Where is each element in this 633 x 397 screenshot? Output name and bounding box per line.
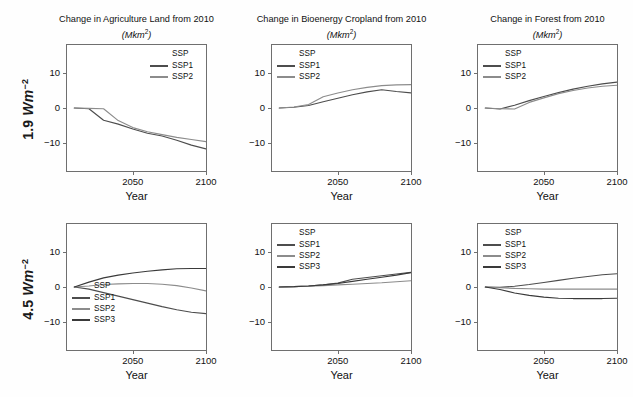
y-tick-label: 0 xyxy=(227,102,265,113)
legend-swatch-ssp2 xyxy=(483,255,501,257)
legend-label: SSP1 xyxy=(299,60,320,71)
legend-title: SSP xyxy=(72,280,115,291)
y-tick-label: −10 xyxy=(22,316,60,327)
x-tick-label: 2050 xyxy=(519,355,569,366)
legend-bioenergy-1p9: SSPSSP1SSP2 xyxy=(277,48,320,82)
panel-title-units: (Mkm2) xyxy=(431,26,633,42)
legend-item-ssp2[interactable]: SSP2 xyxy=(277,250,320,261)
y-tickmark xyxy=(63,322,66,323)
x-tick-label: 2050 xyxy=(519,176,569,187)
x-tickmark xyxy=(411,351,412,354)
y-tick-label: −10 xyxy=(22,137,60,148)
legend-swatch-ssp3 xyxy=(277,266,295,268)
figure-canvas: 1.9 Wm−24.5 Wm−2Change in Agriculture La… xyxy=(0,0,633,397)
series-line-ssp1 xyxy=(279,90,411,108)
x-tickmark xyxy=(411,172,412,175)
panel-title-block-agri-1p9: Change in Agriculture Land from 2010(Mkm… xyxy=(20,13,253,43)
y-tickmark xyxy=(268,143,271,144)
legend-swatch-ssp1 xyxy=(483,65,501,67)
legend-item-ssp3[interactable]: SSP3 xyxy=(72,314,115,325)
legend-item-ssp2[interactable]: SSP2 xyxy=(72,303,115,314)
y-tick-label: −10 xyxy=(227,137,265,148)
y-tickmark xyxy=(63,73,66,74)
y-tick-label: 0 xyxy=(22,281,60,292)
x-tickmark xyxy=(338,172,339,175)
legend-label: SSP2 xyxy=(172,71,193,82)
panel-title-text: Change in Agriculture Land from 2010 xyxy=(59,14,214,24)
x-tick-label: 2100 xyxy=(181,176,231,187)
legend-swatch-ssp2 xyxy=(277,76,295,78)
series-line-ssp1 xyxy=(74,108,206,149)
y-tick-label: 10 xyxy=(22,246,60,257)
x-tick-label: 2100 xyxy=(386,176,436,187)
legend-forest-4p5: SSPSSP1SSP2SSP3 xyxy=(483,227,526,272)
y-tickmark xyxy=(268,108,271,109)
legend-item-ssp2[interactable]: SSP2 xyxy=(483,71,526,82)
legend-label: SSP2 xyxy=(505,71,526,82)
x-tick-label: 2100 xyxy=(386,355,436,366)
x-tickmark xyxy=(133,351,134,354)
legend-agri-4p5: SSPSSP1SSP2SSP3 xyxy=(72,280,115,325)
x-tick-label: 2050 xyxy=(313,176,363,187)
legend-label: SSP1 xyxy=(94,292,115,303)
x-axis-label-agri-4p5: Year xyxy=(66,369,207,381)
panel-title-block-bioenergy-4p5 xyxy=(225,192,458,222)
legend-item-ssp1[interactable]: SSP1 xyxy=(150,60,193,71)
y-tickmark xyxy=(474,108,477,109)
legend-swatch-ssp3 xyxy=(72,319,90,321)
x-tickmark xyxy=(617,172,618,175)
legend-item-ssp1[interactable]: SSP1 xyxy=(483,239,526,250)
legend-label: SSP1 xyxy=(505,239,526,250)
y-tickmark xyxy=(63,252,66,253)
y-tick-label: 0 xyxy=(227,281,265,292)
series-line-ssp2 xyxy=(485,85,617,109)
legend-item-ssp1[interactable]: SSP1 xyxy=(277,239,320,250)
series-line-ssp1 xyxy=(485,274,617,288)
x-tickmark xyxy=(544,172,545,175)
y-tick-label: 10 xyxy=(433,246,471,257)
legend-bioenergy-4p5: SSPSSP1SSP2SSP3 xyxy=(277,227,320,272)
y-tickmark xyxy=(474,143,477,144)
legend-item-ssp3[interactable]: SSP3 xyxy=(483,261,526,272)
legend-item-ssp1[interactable]: SSP1 xyxy=(277,60,320,71)
y-tickmark xyxy=(474,252,477,253)
legend-item-ssp2[interactable]: SSP2 xyxy=(277,71,320,82)
legend-item-ssp1[interactable]: SSP1 xyxy=(72,292,115,303)
legend-label: SSP3 xyxy=(94,314,115,325)
panel-title-forest-1p9: Change in Forest from 2010(Mkm2) xyxy=(431,13,633,41)
legend-item-ssp1[interactable]: SSP1 xyxy=(483,60,526,71)
panel-title-bioenergy-1p9: Change in Bioenergy Cropland from 2010(M… xyxy=(225,13,458,41)
legend-agri-1p9: SSPSSP1SSP2 xyxy=(150,48,193,82)
x-tickmark xyxy=(617,351,618,354)
y-tickmark xyxy=(474,322,477,323)
x-axis-label-bioenergy-4p5: Year xyxy=(271,369,412,381)
legend-item-ssp3[interactable]: SSP3 xyxy=(277,261,320,272)
panel-title-block-forest-1p9: Change in Forest from 2010(Mkm2) xyxy=(431,13,633,43)
legend-label: SSP3 xyxy=(505,261,526,272)
legend-swatch-ssp2 xyxy=(483,76,501,78)
x-tick-label: 2100 xyxy=(181,355,231,366)
x-tickmark xyxy=(338,351,339,354)
legend-label: SSP1 xyxy=(299,239,320,250)
y-tick-label: −10 xyxy=(433,316,471,327)
legend-swatch-ssp3 xyxy=(483,266,501,268)
y-tick-label: −10 xyxy=(227,316,265,327)
y-tickmark xyxy=(268,287,271,288)
legend-item-ssp2[interactable]: SSP2 xyxy=(483,250,526,261)
panel-title-text: Change in Forest from 2010 xyxy=(490,14,604,24)
legend-swatch-ssp2 xyxy=(277,255,295,257)
panel-grid: 1.9 Wm−24.5 Wm−2Change in Agriculture La… xyxy=(0,0,633,397)
y-tickmark xyxy=(63,143,66,144)
y-tickmark xyxy=(63,108,66,109)
legend-swatch-ssp1 xyxy=(483,244,501,246)
x-axis-label-forest-4p5: Year xyxy=(477,369,618,381)
legend-label: SSP1 xyxy=(172,60,193,71)
legend-swatch-ssp2 xyxy=(150,76,168,78)
y-tick-label: 0 xyxy=(433,102,471,113)
legend-item-ssp2[interactable]: SSP2 xyxy=(150,71,193,82)
y-tick-label: 10 xyxy=(227,67,265,78)
x-tickmark xyxy=(133,172,134,175)
x-tick-label: 2050 xyxy=(313,355,363,366)
y-tick-label: 10 xyxy=(433,67,471,78)
legend-forest-1p9: SSPSSP1SSP2 xyxy=(483,48,526,82)
